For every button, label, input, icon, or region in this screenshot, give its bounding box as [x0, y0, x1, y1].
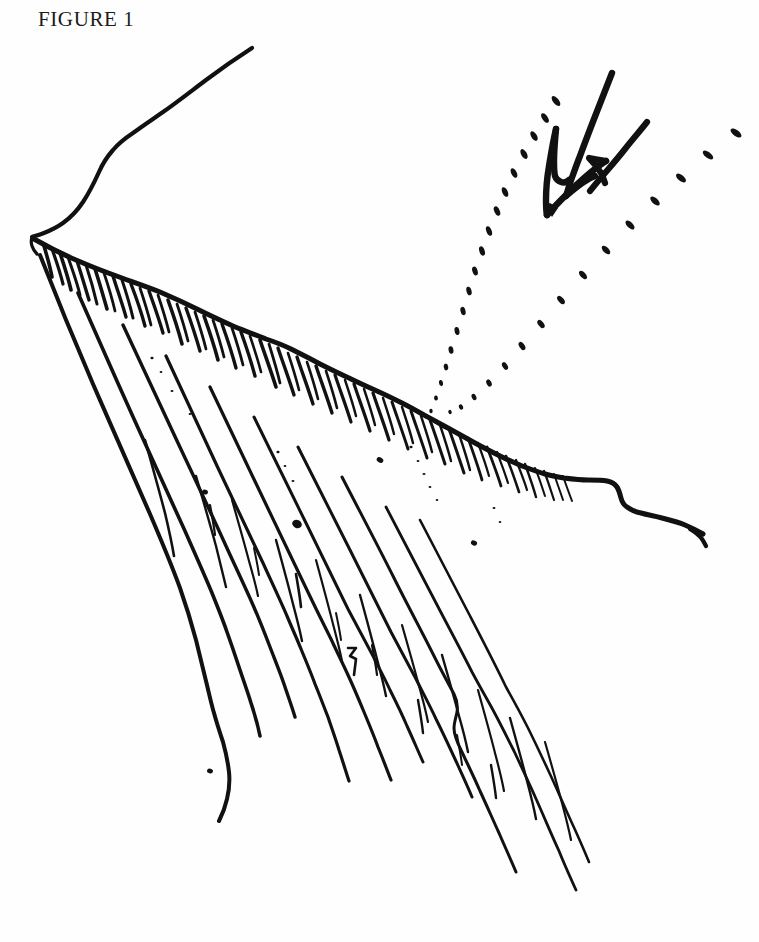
cliff-face-striations — [40, 255, 589, 890]
leader-line-left-dotted — [429, 94, 562, 413]
ridge-line — [34, 239, 706, 546]
annotation-arrow — [545, 73, 647, 217]
ridge-hatching — [44, 246, 572, 501]
skyline-curve — [31, 48, 252, 254]
figure-artwork — [0, 0, 759, 942]
figure-page: FIGURE 1 — [0, 0, 759, 942]
